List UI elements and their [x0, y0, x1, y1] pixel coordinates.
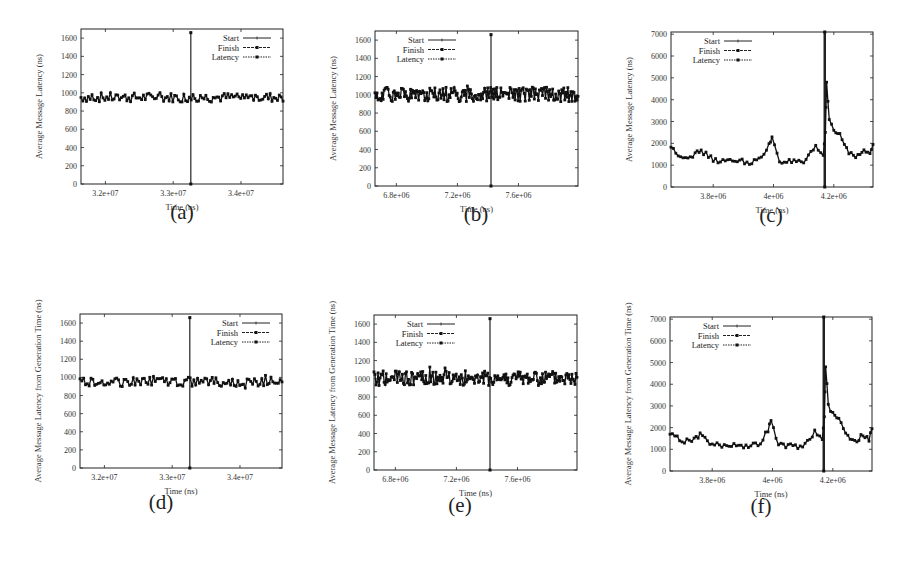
legend-entry-finish: Finish: [699, 46, 721, 56]
y-tick-label: 600: [359, 127, 371, 136]
y-tick-label: 0: [662, 467, 666, 476]
x-tick-label: 3.3e+07: [160, 189, 186, 198]
x-tick-label: 3.4e+07: [228, 189, 254, 198]
panel-f: 010002000300040005000600070003.8e+064e+0…: [600, 280, 903, 566]
legend-entry-latency: Latency: [211, 337, 239, 347]
x-tick-label: 6.8e+06: [382, 475, 408, 484]
legend: StartFinishLatency: [693, 36, 752, 65]
y-tick-label: 1600: [354, 320, 370, 329]
x-tick-label: 3.3e+07: [159, 473, 185, 482]
y-tick-label: 1000: [60, 373, 76, 382]
latency-series: [670, 81, 875, 166]
latency-series: [80, 91, 285, 103]
latency-series: [669, 365, 874, 449]
y-tick-label: 1400: [354, 338, 370, 347]
y-tick-label: 1200: [355, 73, 371, 82]
legend-entry-finish: Finish: [218, 43, 240, 53]
y-tick-label: 600: [64, 410, 76, 419]
panel-c: 010002000300040005000600070003.8e+064e+0…: [600, 0, 903, 280]
y-tick-label: 200: [64, 446, 76, 455]
x-tick-label: 4.2e+06: [820, 476, 846, 485]
y-tick-label: 0: [367, 182, 371, 191]
y-tick-label: 1000: [650, 445, 666, 454]
plot-frame: [80, 314, 282, 468]
plot-c: 010002000300040005000600070003.8e+064e+0…: [600, 0, 903, 280]
y-tick-label: 800: [65, 107, 77, 116]
legend-entry-finish: Finish: [402, 329, 424, 339]
legend-entry-start: Start: [223, 33, 240, 43]
y-tick-label: 2000: [650, 424, 666, 433]
y-tick-label: 1000: [354, 375, 370, 384]
plot-f: 010002000300040005000600070003.8e+064e+0…: [600, 280, 903, 566]
x-tick-label: 7.2e+06: [444, 191, 470, 200]
y-tick-label: 1400: [61, 52, 77, 61]
x-tick-label: 7.2e+06: [443, 475, 469, 484]
legend-entry-latency: Latency: [693, 55, 721, 65]
caption-c: (c): [741, 203, 801, 228]
y-tick-label: 1200: [61, 71, 77, 80]
y-tick-label: 1200: [354, 357, 370, 366]
caption-b: (b): [446, 202, 506, 227]
y-tick-label: 0: [366, 466, 370, 475]
x-tick-label: 3.2e+07: [91, 473, 117, 482]
caption-d: (d): [131, 490, 191, 515]
plot-b: 020040060080010001200140016006.8e+067.2e…: [300, 0, 600, 280]
y-tick-label: 400: [65, 144, 77, 153]
y-tick-label: 800: [64, 392, 76, 401]
y-tick-label: 1600: [61, 34, 77, 43]
y-axis-title: Average Message Latency (ns): [328, 56, 338, 161]
y-tick-label: 0: [663, 183, 667, 192]
legend-entry-finish: Finish: [403, 45, 425, 55]
x-tick-label: 4e+06: [762, 476, 782, 485]
y-tick-label: 800: [358, 393, 370, 402]
legend-entry-latency: Latency: [396, 338, 424, 348]
legend-entry-start: Start: [222, 318, 239, 328]
x-tick-label: 4e+06: [763, 192, 783, 201]
y-tick-label: 200: [359, 164, 371, 173]
plot-a: 020040060080010001200140016003.2e+073.3e…: [0, 0, 300, 280]
x-tick-label: 7.6e+06: [504, 475, 530, 484]
legend-entry-start: Start: [704, 36, 721, 46]
plot-frame: [81, 29, 283, 184]
legend: StartFinishLatency: [212, 33, 271, 62]
y-axis-title: Average Message Latency (ns): [34, 54, 44, 159]
y-tick-label: 4000: [650, 380, 666, 389]
legend-entry-latency: Latency: [397, 54, 425, 64]
x-tick-label: 3.8e+06: [700, 192, 726, 201]
panel-b: 020040060080010001200140016006.8e+067.2e…: [300, 0, 600, 280]
y-tick-label: 1000: [651, 161, 667, 170]
legend: StartFinishLatency: [211, 318, 270, 347]
plot-d: 020040060080010001200140016003.2e+073.3e…: [0, 280, 300, 566]
y-tick-label: 1000: [355, 91, 371, 100]
y-axis-title: Average Message Latency from Generation …: [33, 299, 43, 482]
caption-a: (a): [152, 200, 212, 225]
y-tick-label: 600: [65, 125, 77, 134]
panel-a: 020040060080010001200140016003.2e+073.3e…: [0, 0, 300, 280]
y-tick-label: 5000: [650, 359, 666, 368]
y-axis-title: Average Message Latency (ns): [624, 57, 634, 162]
y-tick-label: 1600: [355, 36, 371, 45]
y-tick-label: 6000: [651, 52, 667, 61]
y-tick-label: 0: [73, 180, 77, 189]
legend-entry-latency: Latency: [692, 340, 720, 350]
x-tick-label: 6.8e+06: [383, 191, 409, 200]
latency-series: [374, 85, 580, 103]
y-tick-label: 400: [358, 430, 370, 439]
legend: StartFinishLatency: [397, 35, 456, 64]
panel-d: 020040060080010001200140016003.2e+073.3e…: [0, 280, 300, 566]
panel-e: 020040060080010001200140016006.8e+067.2e…: [300, 280, 600, 566]
x-tick-label: 4.2e+06: [821, 192, 847, 201]
y-tick-label: 2000: [651, 139, 667, 148]
legend-entry-start: Start: [703, 321, 720, 331]
y-tick-label: 6000: [650, 337, 666, 346]
y-tick-label: 800: [359, 109, 371, 118]
y-tick-label: 200: [65, 162, 77, 171]
y-tick-label: 7000: [650, 315, 666, 324]
y-tick-label: 1400: [355, 54, 371, 63]
legend-entry-start: Start: [407, 319, 424, 329]
legend-entry-finish: Finish: [217, 328, 239, 338]
y-tick-label: 4000: [651, 96, 667, 105]
y-tick-label: 3000: [651, 118, 667, 127]
legend: StartFinishLatency: [396, 319, 455, 348]
x-tick-label: 3.2e+07: [92, 189, 118, 198]
